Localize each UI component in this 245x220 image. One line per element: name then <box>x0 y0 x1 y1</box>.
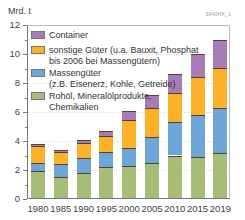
legend-swatch-container <box>31 31 45 39</box>
y-tick-label: 10 <box>4 48 20 59</box>
y-tick-label: 4 <box>4 135 20 146</box>
legend-swatch-massengueter <box>31 69 45 77</box>
y-tick-label: 2 <box>4 164 20 175</box>
figure-code: 5940HX_1 <box>206 11 231 17</box>
legend-label-rohoel: Rohöl, Mineralölprodukte, Chemikalien <box>49 91 209 112</box>
legend-label-container: Container <box>49 30 209 41</box>
legend-label-sonstige: sonstige Güter (u.a. Bauxit, Phosphat bi… <box>49 45 209 66</box>
legend-swatch-sonstige <box>31 46 45 54</box>
y-axis-unit: Mrd. t <box>8 6 31 16</box>
y-tick-label: 8 <box>4 77 20 88</box>
y-tick-label: 0 <box>4 193 20 204</box>
legend-swatch-rohoel <box>31 92 45 100</box>
y-tick-label: 12 <box>4 19 20 30</box>
y-tick-label: 6 <box>4 106 20 117</box>
x-tick-label: 2019 <box>207 203 233 214</box>
legend-label-massengueter: Massengüter (z.B. Eisenerz, Kohle, Getre… <box>49 68 209 89</box>
y-tick <box>23 199 27 200</box>
